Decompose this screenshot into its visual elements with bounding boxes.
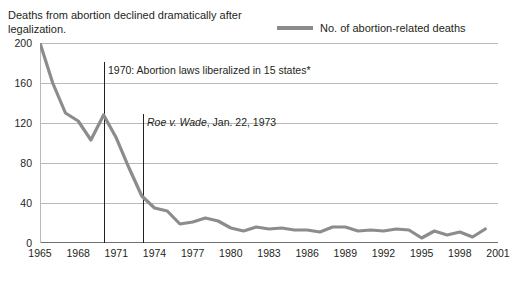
x-tick-1998: 1998 <box>448 247 471 259</box>
chart-title: Deaths from abortion declined dramatical… <box>8 8 258 36</box>
legend-swatch <box>277 26 313 30</box>
annotation-roe-label: Roe v. Wade, Jan. 22, 1973 <box>147 116 276 128</box>
y-tick-40: 40 <box>6 197 32 209</box>
x-tick-1968: 1968 <box>67 247 90 259</box>
annotation-1970-label: 1970: Abortion laws liberalized in 15 st… <box>108 64 311 76</box>
x-tick-1977: 1977 <box>181 247 204 259</box>
chart-root: Deaths from abortion declined dramatical… <box>0 0 520 281</box>
y-tick-80: 80 <box>6 157 32 169</box>
legend-label: No. of abortion-related deaths <box>320 22 466 34</box>
x-tick-1983: 1983 <box>257 247 280 259</box>
y-tick-160: 160 <box>6 77 32 89</box>
annotation-roe-italic: Roe v. Wade <box>147 116 207 128</box>
x-tick-1992: 1992 <box>372 247 395 259</box>
x-tick-1974: 1974 <box>143 247 166 259</box>
x-tick-1971: 1971 <box>105 247 128 259</box>
y-tick-120: 120 <box>6 117 32 129</box>
x-tick-1980: 1980 <box>219 247 242 259</box>
annotation-roe-rest: , Jan. 22, 1973 <box>207 116 276 128</box>
y-tick-200: 200 <box>6 37 32 49</box>
x-tick-1965: 1965 <box>28 247 51 259</box>
chart-legend: No. of abortion-related deaths <box>277 22 466 34</box>
x-tick-1986: 1986 <box>296 247 319 259</box>
x-tick-2001: 2001 <box>486 247 509 259</box>
x-tick-1989: 1989 <box>334 247 357 259</box>
x-tick-1995: 1995 <box>410 247 433 259</box>
